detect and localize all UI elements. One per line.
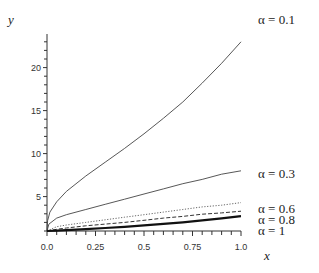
y-tick-label: 15 (31, 106, 41, 116)
x-axis: 0.00.250.50.751.0 (41, 231, 248, 252)
x-axis-label: x (263, 248, 270, 263)
curve-----0-3 (47, 171, 241, 231)
curve-----0-8 (47, 211, 241, 231)
curves (47, 42, 241, 231)
x-tick-label: 0.25 (87, 242, 105, 252)
y-tick-label: 20 (31, 63, 41, 73)
y-axis: 5101520 (31, 34, 47, 231)
x-tick-label: 0.0 (41, 242, 54, 252)
y-tick-label: 10 (31, 149, 41, 159)
label-alpha-0-3: α = 0.3 (258, 166, 295, 181)
x-tick-label: 1.0 (235, 242, 248, 252)
chart: 5101520 0.00.250.50.751.0 y x α = 0.1 α … (0, 0, 319, 273)
curve-----0-6 (47, 203, 241, 231)
label-alpha-0-1: α = 0.1 (258, 12, 295, 27)
x-tick-label: 0.75 (184, 242, 202, 252)
x-tick-label: 0.5 (138, 242, 151, 252)
y-axis-label: y (6, 12, 14, 27)
curve-----0-1 (47, 42, 241, 231)
curve-----1 (47, 216, 241, 231)
label-alpha-1: α = 1 (258, 223, 285, 238)
y-tick-label: 5 (36, 192, 41, 202)
